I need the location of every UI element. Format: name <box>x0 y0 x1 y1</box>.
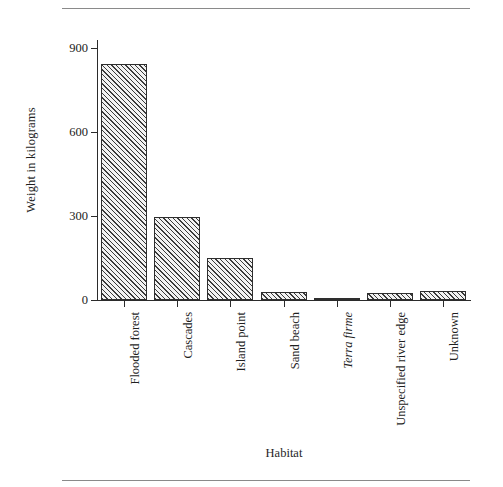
bar <box>420 291 466 300</box>
x-axis-title: Habitat <box>97 446 471 461</box>
x-axis-tick <box>230 301 231 307</box>
bar <box>314 298 360 300</box>
y-axis-tick-label: 0 <box>40 294 88 307</box>
x-axis-tick-label: Unspecified river edge <box>395 312 408 426</box>
x-axis-tick-label: Terra firme <box>342 312 355 369</box>
top-horizontal-rule <box>62 8 470 9</box>
x-axis-tick-label: Island point <box>235 312 248 371</box>
x-axis-tick <box>124 301 125 307</box>
x-axis-tick <box>284 301 285 307</box>
y-axis-tick-label: 600 <box>40 126 88 139</box>
bar <box>367 293 413 300</box>
x-axis-tick-label: Sand beach <box>289 312 302 369</box>
y-axis-tick <box>91 48 97 49</box>
x-axis-tick-label: Unknown <box>448 312 461 361</box>
bar <box>261 292 307 300</box>
bottom-horizontal-rule <box>62 480 470 481</box>
y-axis-tick <box>91 300 97 301</box>
y-axis-title: Weight in kilograms <box>24 30 44 290</box>
x-axis-tick-label: Cascades <box>182 312 195 359</box>
figure-canvas: 0300600900 Flooded forestCascadesIsland … <box>0 0 503 487</box>
x-axis-tick <box>443 301 444 307</box>
plot-area <box>97 40 470 300</box>
bar <box>154 217 200 300</box>
y-axis-tick-label: 300 <box>40 210 88 223</box>
x-axis-tick <box>177 301 178 307</box>
y-axis-tick-label: 900 <box>40 42 88 55</box>
x-axis-tick-label: Flooded forest <box>129 312 142 385</box>
bar <box>207 258 253 300</box>
x-axis-tick <box>337 301 338 307</box>
bar <box>101 64 147 300</box>
y-axis-tick <box>91 132 97 133</box>
x-axis-tick <box>390 301 391 307</box>
y-axis-tick <box>91 216 97 217</box>
